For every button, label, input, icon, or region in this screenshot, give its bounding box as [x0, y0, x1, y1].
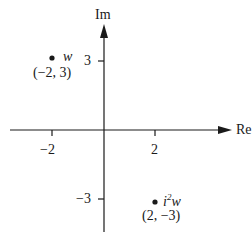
point-w-coords: (−2, 3)	[33, 66, 71, 80]
point-w-label: w	[63, 50, 72, 64]
y-tick-label-neg3: −3	[76, 192, 91, 206]
y-tick-label-3: 3	[84, 54, 91, 68]
real-axis-arrow-icon	[218, 126, 232, 134]
imaginary-axis-label: Im	[95, 8, 111, 22]
x-tick-label-neg2: −2	[40, 143, 55, 157]
complex-plane-axes	[0, 0, 252, 232]
imaginary-axis-arrow-icon	[100, 24, 108, 38]
point-i2w-label: i2w	[163, 195, 181, 209]
x-tick-label-2: 2	[151, 143, 158, 157]
point-i2w	[152, 199, 157, 204]
point-i2w-coords: (2, −3)	[142, 209, 180, 223]
label-tail: w	[171, 194, 180, 209]
real-axis-label: Re	[236, 123, 252, 137]
point-w	[49, 55, 54, 60]
